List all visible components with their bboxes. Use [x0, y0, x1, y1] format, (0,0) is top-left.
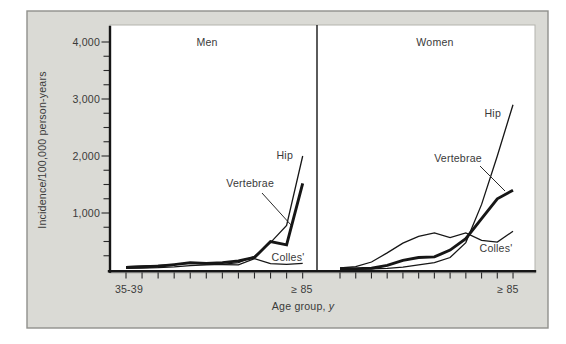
- women-hip-label: Hip: [485, 107, 502, 119]
- panel-title-women: Women: [416, 36, 453, 48]
- x-axis-title-suffix: y: [328, 300, 335, 312]
- men-hip-label: Hip: [277, 149, 294, 161]
- figure: Men Women Hip Vertebrae Colles' Hip Vert…: [0, 0, 566, 344]
- y-tick-label-3000: 3,000: [72, 93, 100, 105]
- y-tick-label-1000: 1,000: [72, 207, 100, 219]
- men-vertebrae-label: Vertebrae: [226, 177, 274, 189]
- men-colles-label: Colles': [272, 251, 305, 263]
- women-colles-label: Colles': [480, 242, 513, 254]
- y-tick-label-4000: 4,000: [72, 36, 100, 48]
- x-tick-label-women-85plus: ≥ 85: [497, 283, 518, 295]
- x-tick-label-men-85plus: ≥ 85: [291, 283, 312, 295]
- panel-title-men: Men: [196, 36, 217, 48]
- y-axis-title: Incidence/100,000 person-years: [36, 71, 48, 228]
- fracture-incidence-chart: Men Women Hip Vertebrae Colles' Hip Vert…: [0, 0, 566, 344]
- x-axis-title: Age group,y: [272, 300, 335, 312]
- x-axis-title-prefix: Age group,: [272, 300, 326, 312]
- x-tick-label-men-35-39: 35-39: [115, 283, 143, 295]
- y-tick-label-2000: 2,000: [72, 150, 100, 162]
- women-vertebrae-label: Vertebrae: [434, 152, 482, 164]
